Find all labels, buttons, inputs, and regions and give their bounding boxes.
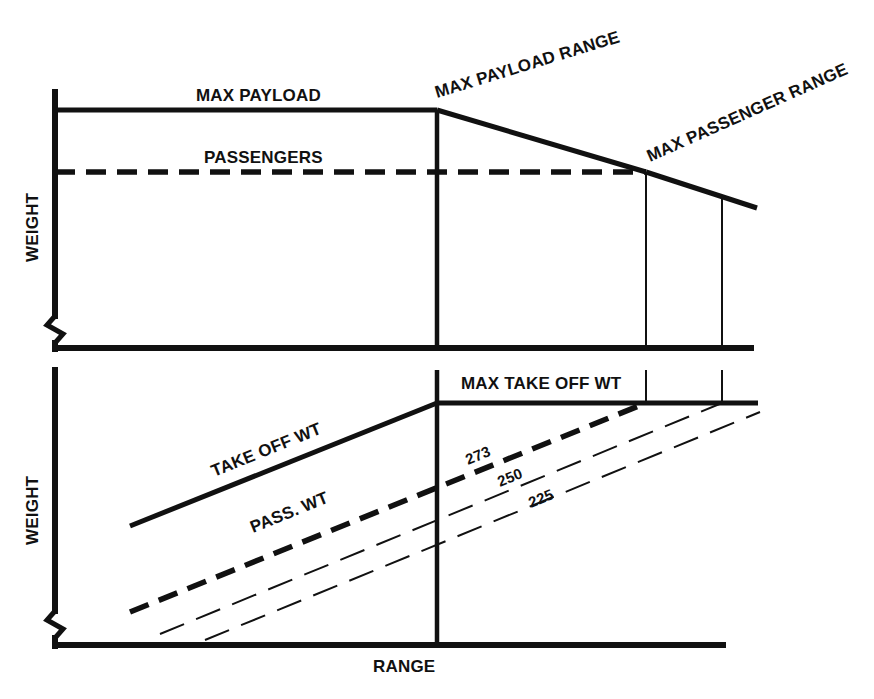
label-weight-lower: WEIGHT bbox=[23, 475, 42, 545]
label-range: RANGE bbox=[373, 657, 435, 676]
curve-max-passenger-range bbox=[646, 172, 757, 208]
label-passengers-225: 225 bbox=[526, 485, 556, 510]
diagram-canvas: MAX PAYLOAD PASSENGERS MAX PAYLOAD RANGE… bbox=[0, 0, 874, 699]
lower-chart: MAX TAKE OFF WT TAKE OFF WT PASS. WT 273… bbox=[23, 370, 760, 676]
upper-chart: MAX PAYLOAD PASSENGERS MAX PAYLOAD RANGE… bbox=[23, 27, 851, 349]
payload-range-diagram: MAX PAYLOAD PASSENGERS MAX PAYLOAD RANGE… bbox=[0, 0, 874, 699]
label-passengers: PASSENGERS bbox=[204, 148, 323, 167]
label-passengers-250: 250 bbox=[495, 464, 525, 489]
label-max-payload-range: MAX PAYLOAD RANGE bbox=[433, 27, 622, 101]
label-pass-wt: PASS. WT bbox=[247, 488, 331, 537]
label-weight-upper: WEIGHT bbox=[23, 192, 42, 262]
label-max-take-off-wt: MAX TAKE OFF WT bbox=[461, 374, 622, 393]
curve-max-payload-range bbox=[437, 110, 646, 172]
curve-pass-wt-273 bbox=[130, 403, 646, 612]
curve-pass-wt-250 bbox=[160, 403, 722, 634]
upper-y-axis-break-icon bbox=[47, 316, 63, 343]
label-max-payload: MAX PAYLOAD bbox=[196, 86, 321, 105]
lower-y-axis-break-icon bbox=[47, 611, 63, 638]
label-max-passenger-range: MAX PASSENGER RANGE bbox=[644, 60, 851, 166]
